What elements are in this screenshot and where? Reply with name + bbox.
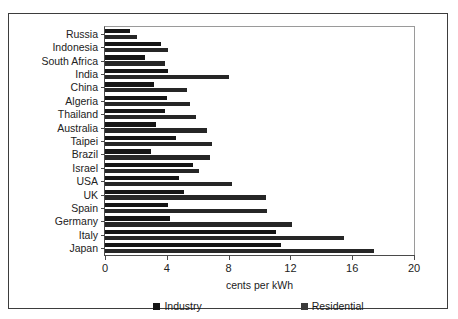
y-axis-tick xyxy=(101,114,105,115)
bar-residential-usa xyxy=(105,182,232,186)
legend-item-residential[interactable]: Residential xyxy=(301,300,364,312)
bar-industry-algeria xyxy=(105,96,167,100)
y-axis-label-algeria: Algeria xyxy=(65,96,98,107)
legend-label: Industry xyxy=(164,300,201,312)
y-axis-tick xyxy=(101,128,105,129)
bar-industry-spain xyxy=(105,203,168,207)
bar-residential-indonesia xyxy=(105,48,168,52)
x-axis-tick xyxy=(414,255,415,260)
chart-row: Australia xyxy=(105,121,414,134)
chart-row: Indonesia xyxy=(105,40,414,53)
bar-residential-algeria xyxy=(105,102,190,106)
x-axis-tick xyxy=(352,255,353,260)
y-axis-label-spain: Spain xyxy=(71,203,98,214)
x-axis-tick-label: 0 xyxy=(102,262,108,274)
x-axis-tick-label: 16 xyxy=(346,262,358,274)
bar-residential-south-africa xyxy=(105,61,165,65)
bar-industry-usa xyxy=(105,176,179,180)
legend-swatch-icon xyxy=(153,303,160,310)
x-axis-tick xyxy=(229,255,230,260)
chart-row: South Africa xyxy=(105,54,414,67)
chart-row: USA xyxy=(105,175,414,188)
bar-residential-australia xyxy=(105,128,207,132)
chart-row: Brazil xyxy=(105,148,414,161)
chart-row: Japan xyxy=(105,242,414,255)
chart-row: UK xyxy=(105,188,414,201)
bar-residential-thailand xyxy=(105,115,196,119)
x-axis-tick-label: 12 xyxy=(284,262,296,274)
y-axis-label-thailand: Thailand xyxy=(58,109,98,120)
bar-residential-italy xyxy=(105,236,344,240)
bar-residential-china xyxy=(105,88,187,92)
y-axis-label-taipei: Taipei xyxy=(71,136,98,147)
bar-residential-brazil xyxy=(105,155,210,159)
bar-industry-china xyxy=(105,82,154,86)
x-axis-tick-label: 20 xyxy=(408,262,420,274)
x-axis-tick-label: 8 xyxy=(226,262,232,274)
bar-industry-japan xyxy=(105,243,281,247)
bar-industry-israel xyxy=(105,163,193,167)
y-axis-label-china: China xyxy=(71,82,98,93)
bar-industry-thailand xyxy=(105,109,165,113)
chart-row: Spain xyxy=(105,201,414,214)
y-axis-label-uk: UK xyxy=(83,190,98,201)
y-axis-tick xyxy=(101,248,105,249)
y-axis-tick xyxy=(101,208,105,209)
y-axis-tick xyxy=(101,195,105,196)
y-axis-tick xyxy=(101,34,105,35)
bar-residential-russia xyxy=(105,35,137,39)
y-axis-label-japan: Japan xyxy=(69,243,98,254)
bar-industry-india xyxy=(105,69,168,73)
bar-residential-uk xyxy=(105,195,266,199)
y-axis-label-south-africa: South Africa xyxy=(41,56,98,67)
chart-row: Israel xyxy=(105,161,414,174)
y-axis-label-brazil: Brazil xyxy=(72,149,98,160)
y-axis-label-israel: Israel xyxy=(72,163,98,174)
y-axis-label-italy: Italy xyxy=(79,230,98,241)
y-axis-label-australia: Australia xyxy=(57,123,98,134)
bar-industry-south-africa xyxy=(105,55,145,59)
chart-title-ghost xyxy=(0,0,458,11)
bar-residential-india xyxy=(105,75,229,79)
y-axis-label-usa: USA xyxy=(76,176,98,187)
y-axis-tick xyxy=(101,74,105,75)
bar-residential-taipei xyxy=(105,142,212,146)
y-axis-tick xyxy=(101,221,105,222)
chart-row: Italy xyxy=(105,228,414,241)
bar-residential-japan xyxy=(105,249,374,253)
plot-area: RussiaIndonesiaSouth AfricaIndiaChinaAlg… xyxy=(104,26,415,256)
chart-row: Taipei xyxy=(105,134,414,147)
y-axis-label-india: India xyxy=(75,69,98,80)
y-axis-label-russia: Russia xyxy=(66,29,98,40)
bar-industry-russia xyxy=(105,29,130,33)
y-axis-tick xyxy=(101,87,105,88)
bar-industry-germany xyxy=(105,216,170,220)
y-axis-tick xyxy=(101,181,105,182)
y-axis-tick xyxy=(101,61,105,62)
x-axis-tick-label: 4 xyxy=(164,262,170,274)
chart-row: Thailand xyxy=(105,107,414,120)
x-axis-tick xyxy=(167,255,168,260)
y-axis-tick xyxy=(101,47,105,48)
y-axis-tick xyxy=(101,101,105,102)
chart-row: Algeria xyxy=(105,94,414,107)
bar-residential-spain xyxy=(105,209,267,213)
bar-industry-uk xyxy=(105,190,184,194)
chart-row: Germany xyxy=(105,215,414,228)
legend-item-industry[interactable]: Industry xyxy=(153,300,201,312)
y-axis-tick xyxy=(101,154,105,155)
chart-row: Russia xyxy=(105,27,414,40)
bar-residential-israel xyxy=(105,169,199,173)
bar-industry-australia xyxy=(105,122,156,126)
x-axis-tick xyxy=(290,255,291,260)
chart-row: China xyxy=(105,81,414,94)
x-axis-tick xyxy=(105,255,106,260)
y-axis-tick xyxy=(101,235,105,236)
bar-industry-taipei xyxy=(105,136,176,140)
bar-industry-indonesia xyxy=(105,42,161,46)
y-axis-label-indonesia: Indonesia xyxy=(52,42,98,53)
y-axis-label-germany: Germany xyxy=(55,216,98,227)
bar-residential-germany xyxy=(105,222,292,226)
bar-industry-brazil xyxy=(105,149,151,153)
y-axis-tick xyxy=(101,168,105,169)
